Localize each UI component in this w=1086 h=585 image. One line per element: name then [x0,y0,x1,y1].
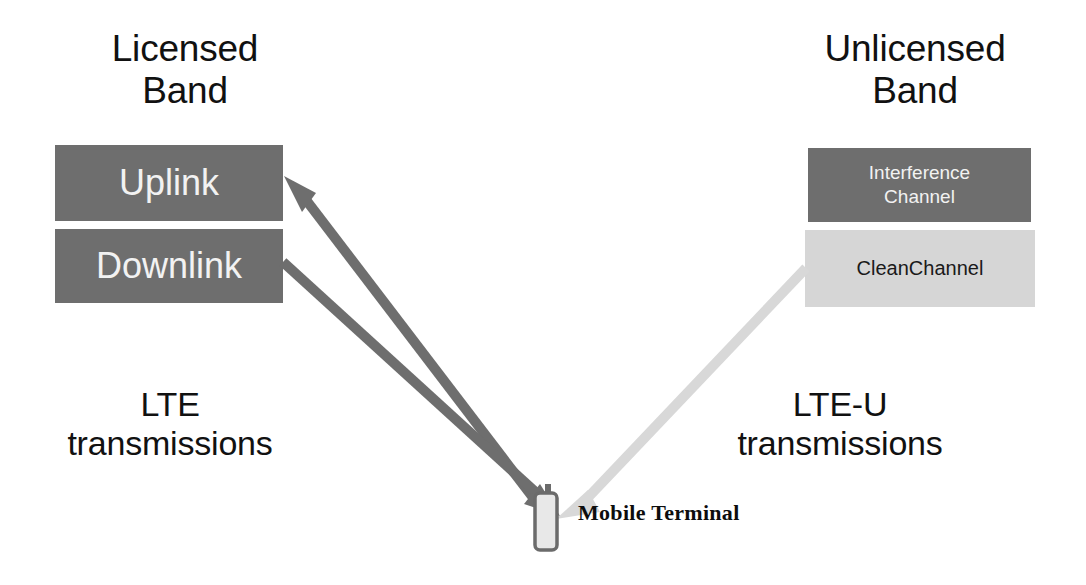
clean-channel-arrow [556,268,806,519]
mobile-terminal-label: Mobile Terminal [578,500,740,526]
diagram-canvas: Licensed Band Unlicensed Band Uplink Dow… [0,0,1086,585]
mobile-phone-icon [532,484,560,552]
downlink-arrow [283,262,560,516]
